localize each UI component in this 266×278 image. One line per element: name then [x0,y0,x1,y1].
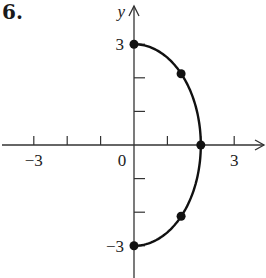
y-tick-label: −3 [106,237,124,256]
data-point [177,69,186,78]
x-tick-label: −3 [25,151,43,170]
x-tick-label: 0 [118,151,127,170]
y-tick-label: 3 [116,35,125,54]
x-tick-label: 3 [230,151,239,170]
data-point [196,141,205,150]
data-point [130,40,139,49]
y-axis-label: y [115,2,125,21]
ellipse-graph: −3033−3y [0,0,266,278]
tick-labels: −3033−3y [25,2,239,256]
data-point [177,212,186,221]
data-point [130,241,139,250]
